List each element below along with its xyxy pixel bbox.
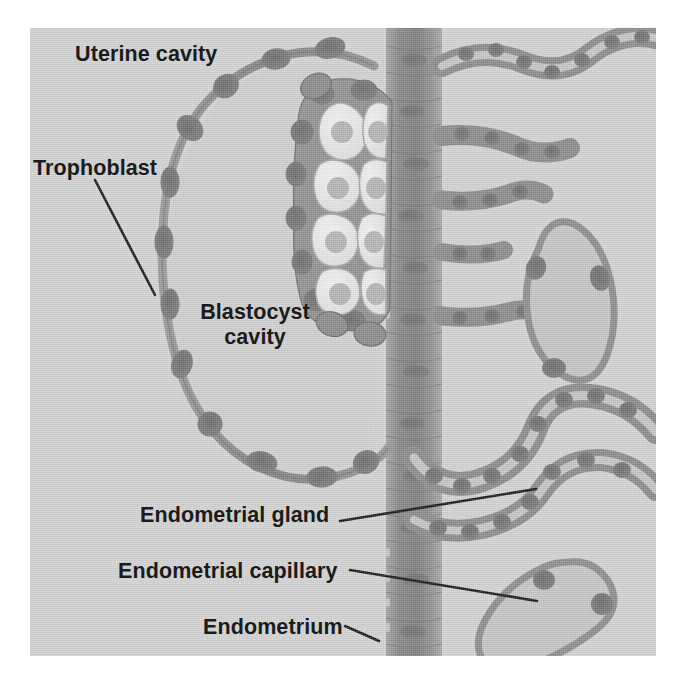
label-endometrial-gland: Endometrial gland [140,503,329,528]
label-blastocyst-cavity: Blastocyst cavity [180,300,330,351]
label-endometrial-capillary: Endometrial capillary [118,559,338,584]
illustration-stage: Uterine cavity Trophoblast Blastocyst ca… [0,0,683,689]
label-blastocyst-cavity-line1: Blastocyst [200,300,310,324]
label-trophoblast: Trophoblast [33,156,157,181]
label-blastocyst-cavity-line2: cavity [224,325,286,349]
endometrium-band [386,28,442,656]
label-endometrium: Endometrium [203,615,343,640]
endometrial-gland-branch-c [442,247,504,261]
label-uterine-cavity: Uterine cavity [75,42,217,67]
